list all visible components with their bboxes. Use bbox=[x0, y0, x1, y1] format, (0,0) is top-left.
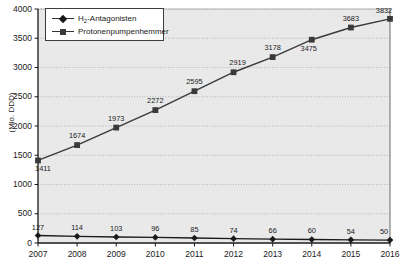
y-axis-tick-label: 1000 bbox=[2, 179, 32, 189]
data-point-label: 103 bbox=[99, 224, 133, 233]
y-axis-tick-label: 1500 bbox=[2, 150, 32, 160]
data-point-label: 1674 bbox=[60, 131, 94, 140]
square-icon bbox=[60, 29, 66, 35]
data-point-label: 50 bbox=[367, 227, 401, 236]
x-axis-tick-label: 2014 bbox=[292, 249, 332, 259]
data-point-label: 74 bbox=[217, 226, 251, 235]
legend-item-h2-antagonisten: H2-Antagonisten bbox=[52, 12, 137, 25]
data-point-label: 54 bbox=[334, 227, 368, 236]
y-axis-tick-label: 3500 bbox=[2, 33, 32, 43]
x-axis-tick-label: 2013 bbox=[253, 249, 293, 259]
diamond-icon bbox=[59, 15, 67, 23]
data-point-label: 114 bbox=[60, 223, 94, 232]
x-axis-tick-label: 2016 bbox=[370, 249, 403, 259]
y-axis-tick-label: 4000 bbox=[2, 4, 32, 14]
data-point-label: 3475 bbox=[292, 44, 326, 53]
data-point-label: 1411 bbox=[26, 164, 60, 173]
x-axis-tick-label: 2007 bbox=[18, 249, 58, 259]
data-point-label: 3832 bbox=[367, 6, 401, 15]
data-point-label: 127 bbox=[21, 223, 55, 232]
y-axis-title: (Mio. DDD) bbox=[7, 77, 16, 149]
legend-label-h2-antagonisten: H2-Antagonisten bbox=[78, 14, 137, 23]
y-axis-tick-label: 2500 bbox=[2, 91, 32, 101]
legend: H2-Antagonisten Protonenpumpenhemmer bbox=[45, 8, 164, 41]
y-axis-tick-label: 500 bbox=[2, 208, 32, 218]
x-axis-tick-label: 2009 bbox=[96, 249, 136, 259]
data-point-label: 3683 bbox=[334, 14, 368, 23]
x-axis-tick-label: 2011 bbox=[174, 249, 214, 259]
y-axis-tick-label: 0 bbox=[2, 238, 32, 248]
legend-label-subscript: 2 bbox=[84, 18, 87, 24]
y-axis-tick-label: 3000 bbox=[2, 62, 32, 72]
data-point-label: 85 bbox=[177, 225, 211, 234]
legend-label-protonenpumpenhemmer: Protonenpumpenhemmer bbox=[78, 27, 169, 36]
data-point-label: 3178 bbox=[256, 43, 290, 52]
chart-container: (Mio. DDD) 05001000150020002500300035004… bbox=[0, 0, 403, 268]
x-axis-tick-label: 2015 bbox=[331, 249, 371, 259]
legend-item-protonenpumpenhemmer: Protonenpumpenhemmer bbox=[52, 25, 169, 38]
data-point-label: 60 bbox=[295, 226, 329, 235]
x-axis-tick-label: 2012 bbox=[214, 249, 254, 259]
legend-label-prefix: H bbox=[78, 14, 84, 23]
data-point-label: 2919 bbox=[221, 58, 255, 67]
data-point-label: 96 bbox=[138, 224, 172, 233]
legend-line-sample bbox=[52, 18, 74, 19]
legend-label-suffix: -Antagonisten bbox=[87, 14, 136, 23]
y-axis-tick-label: 2000 bbox=[2, 121, 32, 131]
x-axis-tick-label: 2008 bbox=[57, 249, 97, 259]
data-point-label: 66 bbox=[256, 226, 290, 235]
legend-line-sample bbox=[52, 31, 74, 32]
data-point-label: 2272 bbox=[138, 96, 172, 105]
x-axis-tick-label: 2010 bbox=[135, 249, 175, 259]
data-point-label: 1973 bbox=[99, 114, 133, 123]
data-point-label: 2595 bbox=[177, 77, 211, 86]
